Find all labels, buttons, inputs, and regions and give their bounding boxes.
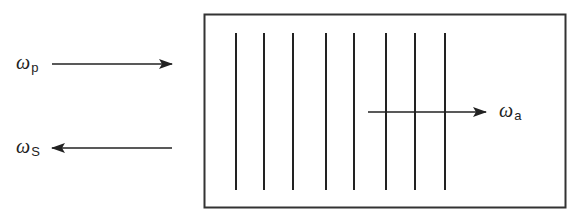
anti-stokes-label: ωa bbox=[499, 100, 521, 122]
pump-label: ωp bbox=[16, 52, 38, 74]
stokes-label: ωS bbox=[16, 136, 40, 158]
stokes-symbol: ω bbox=[16, 135, 30, 157]
anti-stokes-symbol: ω bbox=[499, 99, 513, 121]
pump-subscript: p bbox=[31, 60, 38, 75]
diagram-canvas bbox=[0, 0, 574, 224]
anti-stokes-subscript: a bbox=[514, 108, 521, 123]
pump-symbol: ω bbox=[16, 51, 30, 73]
stokes-subscript: S bbox=[31, 144, 40, 159]
